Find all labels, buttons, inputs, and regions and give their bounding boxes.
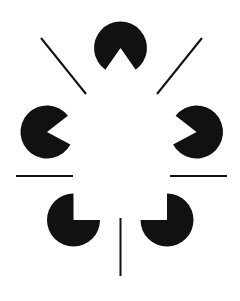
illusory-contour-figure: Top pac-man discLeft pac-man discRight p…	[0, 0, 240, 301]
figure-svg: Top pac-man discLeft pac-man discRight p…	[0, 0, 240, 301]
